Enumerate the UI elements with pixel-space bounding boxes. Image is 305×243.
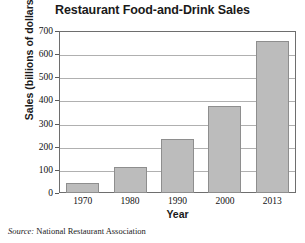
source-text: National Restaurant Association: [36, 226, 146, 236]
x-axis-tick-label: 2013: [249, 196, 296, 206]
bar: [161, 139, 194, 193]
y-axis-tick-label: 500: [13, 72, 53, 82]
y-axis-tick-label: 700: [13, 26, 53, 36]
x-axis-title: Year: [59, 208, 296, 220]
x-axis-tick-label: 2000: [201, 196, 248, 206]
y-axis-tick-mark: [55, 193, 59, 194]
bar: [114, 167, 147, 193]
y-axis-tick-label: 200: [13, 142, 53, 152]
y-axis-tick-label: 600: [13, 49, 53, 59]
bar: [208, 106, 241, 193]
y-axis-tick-label: 0: [13, 188, 53, 198]
x-axis-tick-label: 1970: [59, 196, 106, 206]
x-axis-tick-label: 1990: [154, 196, 201, 206]
y-axis-tick-label: 400: [13, 95, 53, 105]
source-note: Source: National Restaurant Association: [8, 226, 146, 236]
x-axis-tick-label: 1980: [106, 196, 153, 206]
chart-title: Restaurant Food-and-Drink Sales: [0, 3, 305, 17]
bar: [66, 183, 99, 193]
y-axis-tick-label: 100: [13, 165, 53, 175]
bar-series: [59, 31, 296, 193]
y-axis-tick-label: 300: [13, 119, 53, 129]
bar: [256, 41, 289, 193]
source-label: Source:: [8, 226, 34, 236]
